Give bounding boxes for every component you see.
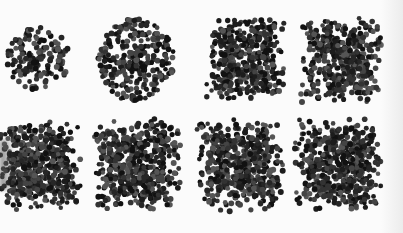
particle-dot [172,181,177,186]
particle-dot [132,18,138,24]
particle-dot [125,87,130,92]
particle-dot [305,157,310,162]
particle-dot [27,37,32,42]
particle-dot [60,196,65,201]
particle-dot [224,167,229,172]
particle-dot [279,49,284,54]
particle-dot [46,122,51,127]
particle-dot [357,26,361,30]
particle-dot [106,53,111,58]
particle-dot [32,173,38,179]
particle-dot [313,138,318,143]
particle-dot [48,56,53,61]
particle-dot [26,142,31,147]
particle-dot [43,151,48,156]
particle-dot [363,74,368,79]
particle-dot [327,154,332,159]
particle-dot [152,150,157,155]
particle-dot [129,126,134,131]
particle-dot [75,184,81,190]
particle-dot [258,65,264,71]
particle-dot [364,159,369,164]
particle-dot [231,162,236,167]
particle-dot [241,153,247,159]
particle-dot [251,28,256,33]
particle-dot [229,181,234,186]
particle-dot [95,202,101,208]
particle-dot [137,95,143,101]
particle-dot [17,64,23,70]
particle-dot [330,132,335,137]
particle-dot [215,32,220,37]
particle-dot [13,46,18,51]
particle-dot [233,22,238,27]
particle-dot [108,167,114,173]
particle-dot [39,72,44,77]
particle-dot [332,92,337,97]
particle-dot [148,138,153,143]
particle-dot [238,38,243,43]
particle-dot [338,190,343,195]
particle-dot [162,123,167,128]
particle-dot [270,90,275,95]
particle-dot [206,199,212,205]
particle-dot [45,66,50,71]
particle-dot [268,124,273,129]
particle-dot [259,70,264,75]
particle-dot [260,54,266,60]
particle-dot [357,195,362,200]
particle-dot [249,136,255,142]
particle-dot [127,156,133,162]
particle-dot [317,42,323,48]
particle-dot [281,21,286,26]
particle-dot [362,116,368,122]
particle-dot [222,178,228,184]
particle-dot [237,202,243,208]
particle-dot [130,147,135,152]
particle-dot [233,193,238,198]
particle-dot [111,67,117,73]
particle-dot [347,141,353,147]
particle-dot [336,66,341,71]
particle-dot [228,55,233,60]
particle-dot [316,94,321,99]
particle-dot [43,79,49,85]
particle-dot [150,200,155,205]
particle-dot [30,86,36,92]
particle-dot [141,165,146,170]
particle-dot [59,35,65,41]
particle-dot [96,171,101,176]
particle-dot [146,37,150,41]
particle-dot [274,196,279,201]
particle-dot [18,59,23,64]
particle-dot [114,154,120,160]
particle-dot [329,21,334,26]
particle-dot [36,168,42,174]
particle-dot [365,96,371,102]
particle-dot [171,160,177,166]
particle-dot [195,127,200,132]
particle-dot [249,142,254,147]
particle-dot [17,177,22,182]
particle-dot [355,123,360,128]
particle-dot [217,61,223,67]
particle-dot [121,174,126,179]
particle-dot [128,200,134,206]
particle-dot [210,33,215,38]
particle-dot [257,169,262,174]
particle-dot [325,38,330,43]
particle-dot [46,175,51,180]
particle-dot [232,138,238,144]
particle-dot [23,84,28,89]
particle-dot [36,50,41,55]
particle-dot [261,122,266,127]
particle-dot [364,126,369,131]
particle-dot [345,65,351,71]
particle-dot [177,142,183,148]
particle-dot [144,22,150,28]
particle-dot [275,153,280,158]
particle-dot [27,123,33,129]
particle-dot [343,26,348,31]
particle-dot [357,66,363,72]
particle-dot [309,164,314,169]
